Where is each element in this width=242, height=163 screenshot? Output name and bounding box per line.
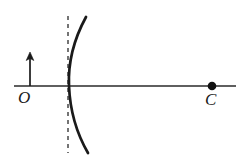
optics-figure: O C xyxy=(0,0,242,163)
optics-diagram-svg xyxy=(0,0,242,163)
concave-mirror-arc xyxy=(69,17,88,153)
label-center-of-curvature-C: C xyxy=(205,91,216,108)
center-of-curvature-dot xyxy=(208,82,217,91)
label-origin-O: O xyxy=(18,89,30,106)
